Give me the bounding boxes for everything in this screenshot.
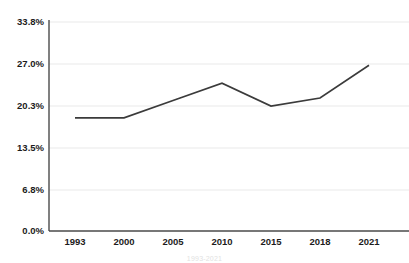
x-tick-label: 2005: [162, 236, 184, 247]
y-tick-label: 0.0%: [22, 225, 44, 236]
y-tick-label: 27.0%: [17, 58, 44, 69]
y-tick-label: 33.8%: [17, 16, 44, 27]
x-tick-label: 2015: [260, 236, 282, 247]
x-tick-label: 2000: [113, 236, 134, 247]
x-tick-label: 2021: [358, 236, 380, 247]
chart-canvas: 33.8% 27.0% 20.3% 13.5% 6.8% 0.0% 1993 2…: [0, 0, 409, 263]
x-tick-label: 2010: [211, 236, 232, 247]
x-tick-label: 2018: [309, 236, 330, 247]
y-tick-label: 6.8%: [22, 184, 44, 195]
y-tick-label: 20.3%: [17, 100, 44, 111]
x-tick-label: 1993: [64, 236, 85, 247]
y-tick-label: 13.5%: [17, 142, 44, 153]
chart-background: [0, 0, 409, 263]
figure-caption: 1993-2021: [0, 254, 409, 263]
line-chart: 33.8% 27.0% 20.3% 13.5% 6.8% 0.0% 1993 2…: [0, 0, 409, 263]
